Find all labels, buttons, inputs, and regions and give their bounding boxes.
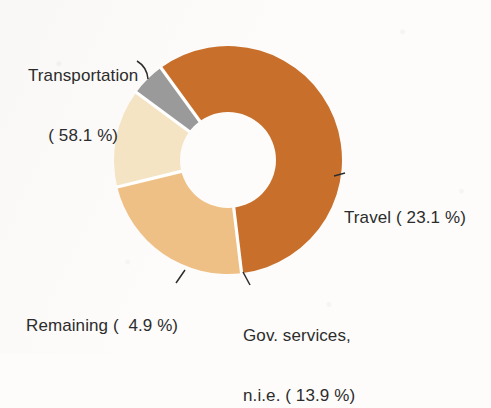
leader-line-transportation <box>137 61 148 79</box>
slice-label-transportation-line2: ( 58.1 %) <box>28 126 138 146</box>
slice-label-gov-services-line1: Gov. services, <box>243 326 355 346</box>
slice-label-remaining-line1: Remaining ( 4.9 %) <box>26 316 178 336</box>
slice-label-transportation-line1: Transportation <box>28 66 138 86</box>
slice-label-gov-services-line2: n.i.e. ( 13.9 %) <box>243 386 355 406</box>
slice-label-remaining: Remaining ( 4.9 %) <box>26 276 178 376</box>
slice-label-transportation: Transportation ( 58.1 %) <box>28 26 138 186</box>
donut-hole <box>180 112 276 208</box>
slice-label-travel: Travel ( 23.1 %) <box>344 168 466 268</box>
slice-label-travel-line1: Travel ( 23.1 %) <box>344 208 466 228</box>
leader-line-gov <box>243 272 250 285</box>
slice-label-gov-services: Gov. services, n.i.e. ( 13.9 %) <box>243 286 355 408</box>
